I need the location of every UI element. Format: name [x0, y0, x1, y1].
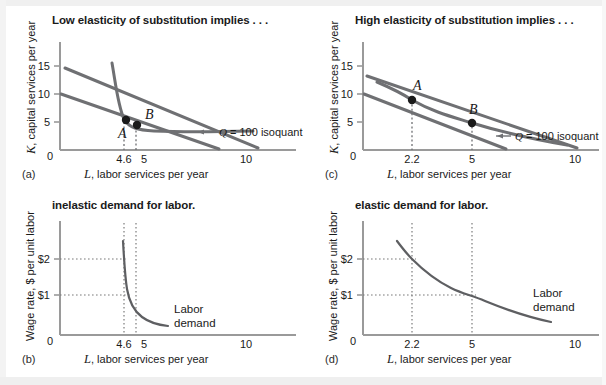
- panel-c-xaxis-symbol: L: [387, 167, 394, 181]
- panel-a-letter: (a): [22, 168, 35, 180]
- panel-c-isoquant-arrowhead: [497, 134, 503, 139]
- figure-container: Low elasticity of substitution implies .…: [0, 0, 606, 385]
- panel-a-xtick-label-5: 5: [141, 153, 147, 165]
- panel-d-ytick-label-2: $2: [341, 253, 353, 265]
- panel-b-letter: (b): [22, 353, 35, 365]
- panel-c-plot: 15 10 5 0 2.2 5 10 Q = 100 isoquant A B: [311, 8, 606, 193]
- panel-b-ytick-label-2: $2: [38, 253, 50, 265]
- frame-edge-bottom: [0, 377, 606, 385]
- panel-a-point-b-label: B: [145, 107, 154, 122]
- panel-a-yaxis-text: , capital services per year: [25, 21, 37, 146]
- panel-a-point-a-label: A: [117, 126, 127, 141]
- panel-b-curve-label-line2: demand: [174, 317, 216, 329]
- panel-d-letter: (d): [325, 353, 338, 365]
- panel-b-xaxis-caption: L, labor services per year: [84, 352, 208, 367]
- panel-d-xaxis-caption: L, labor services per year: [387, 352, 511, 367]
- panel-b-xaxis-symbol: L: [84, 352, 91, 366]
- panel-a-ytick-label-5: 5: [44, 116, 50, 128]
- panel-c-xaxis-caption: L, labor services per year: [387, 167, 511, 182]
- panel-a-point-a: [122, 116, 130, 124]
- panel-c-isocost-initial: [364, 94, 506, 149]
- panel-d-xtick-label-5: 5: [469, 338, 475, 350]
- panel-d-plot: $2 $1 0 2.2 5 10 Labor demand: [311, 193, 606, 378]
- panel-b-yaxis-caption: Wage rate, $ per unit labor: [24, 211, 36, 341]
- panel-d-demand-curve: [397, 241, 551, 322]
- panel-c-ytick-label-0: 0: [350, 150, 356, 162]
- panel-b-yaxis-text: Wage rate, $ per unit labor: [24, 211, 36, 341]
- panel-d-xaxis-symbol: L: [387, 352, 394, 366]
- panel-a-isoquant-label: Q = 100 isoquant: [219, 126, 303, 138]
- panel-c-ytick-label-10: 10: [341, 88, 353, 100]
- panel-a-xtick-label-10: 10: [240, 153, 252, 165]
- panel-d-ytick-label-1: $1: [341, 289, 353, 301]
- panel-c-point-b: [468, 119, 476, 127]
- panel-b-ytick-label-1: $1: [38, 289, 50, 301]
- panel-d-curve-label-line1: Labor: [533, 287, 563, 299]
- panel-c-letter: (c): [325, 168, 338, 180]
- panel-c: High elasticity of substitution implies …: [311, 8, 606, 193]
- panel-c-isoquant-label: Q = 100 isoquant: [515, 130, 599, 142]
- panel-c-yaxis-caption: K, capital services per year: [327, 21, 342, 154]
- panel-b-xaxis-text: , labor services per year: [91, 353, 208, 365]
- panel-d-yaxis-text: Wage rate, $ per unit labor: [327, 211, 339, 341]
- panel-a-yaxis-symbol: K: [24, 146, 38, 154]
- panel-a-ytick-label-10: 10: [38, 88, 50, 100]
- panel-d-xtick-label-2point2: 2.2: [404, 338, 419, 350]
- panel-d-yaxis-caption: Wage rate, $ per unit labor: [327, 211, 339, 341]
- panel-a-xtick-label-4point6: 4.6: [116, 153, 131, 165]
- panel-a-point-b: [133, 121, 141, 129]
- panel-b-xtick-label-4point6: 4.6: [116, 338, 131, 350]
- panel-c-xtick-label-2point2: 2.2: [404, 153, 419, 165]
- panel-d-ytick-label-0: 0: [350, 335, 356, 347]
- panel-c-point-a: [408, 96, 416, 104]
- panel-a-xaxis-symbol: L: [84, 167, 91, 181]
- panel-b-xtick-label-5: 5: [141, 338, 147, 350]
- panel-a-xaxis-caption: L, labor services per year: [84, 167, 208, 182]
- panel-c-xaxis-text: , labor services per year: [394, 168, 511, 180]
- panel-a-yaxis-caption: K, capital services per year: [24, 21, 39, 154]
- panel-b-plot: $2 $1 0 4.6 5 10 Labor demand: [8, 193, 304, 378]
- panel-c-point-a-label: A: [412, 78, 422, 93]
- panel-c-point-b-label: B: [469, 102, 478, 117]
- panel-b-ytick-label-0: 0: [47, 335, 53, 347]
- panel-a-xaxis-text: , labor services per year: [91, 168, 208, 180]
- frame-edge-top: [0, 0, 606, 6]
- frame-edge-left: [0, 0, 6, 385]
- panel-c-ytick-label-15: 15: [341, 60, 353, 72]
- panel-d-xtick-label-10: 10: [569, 338, 581, 350]
- panel-c-yaxis-text: , capital services per year: [328, 21, 340, 146]
- panel-a-plot: 15 10 5 0 4.6 5 10 Q = 100 isoquant A B: [8, 8, 304, 193]
- panel-c-yaxis-symbol: K: [327, 146, 341, 154]
- panel-d: elastic demand for labor. $2 $1 0 2.2 5 …: [311, 193, 606, 378]
- panel-a: Low elasticity of substitution implies .…: [8, 8, 304, 193]
- panel-b: inelastic demand for labor. $2 $1 0 4.6 …: [8, 193, 304, 378]
- panel-b-xtick-label-10: 10: [240, 338, 252, 350]
- panel-d-curve-label-line2: demand: [533, 301, 575, 313]
- panel-c-ytick-label-5: 5: [347, 116, 353, 128]
- panel-c-xtick-label-5: 5: [469, 153, 475, 165]
- panel-b-curve-label-line1: Labor: [174, 303, 204, 315]
- panel-a-ytick-label-0: 0: [47, 150, 53, 162]
- panel-b-demand-curve: [123, 241, 168, 326]
- panel-c-xtick-label-10: 10: [569, 153, 581, 165]
- panel-d-xaxis-text: , labor services per year: [394, 353, 511, 365]
- panel-a-ytick-label-15: 15: [38, 60, 50, 72]
